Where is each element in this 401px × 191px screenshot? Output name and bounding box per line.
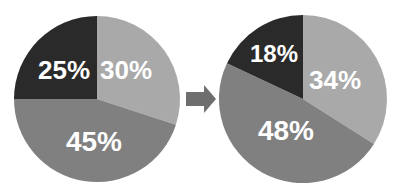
arrow-right-icon (186, 85, 216, 113)
label-medium-after: 48% (258, 115, 314, 146)
pie-before: 30% 45% 25% (14, 16, 180, 182)
pie-comparison-chart: 30% 45% 25% 34% 48% 18% (0, 0, 401, 191)
label-dark-after: 18% (250, 40, 298, 67)
label-dark-before: 25% (38, 55, 90, 85)
label-light-before: 30% (100, 55, 152, 85)
pie-after: 34% 48% 18% (219, 15, 387, 183)
label-light-after: 34% (309, 65, 361, 95)
label-medium-before: 45% (66, 126, 122, 157)
